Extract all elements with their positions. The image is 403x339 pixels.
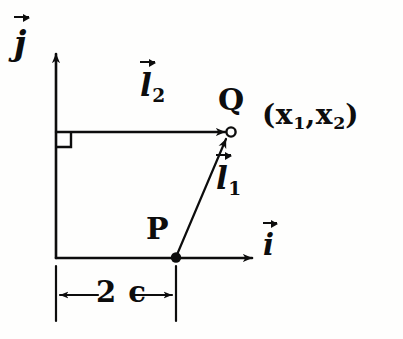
coord-close-paren: ): [345, 98, 359, 131]
point-q-coordinates-label: (x1,x2): [262, 101, 359, 133]
vector-l1-label: l1: [216, 163, 241, 199]
point-q-label: Q: [218, 85, 244, 115]
coord-x1-subscript: 1: [293, 113, 305, 133]
i-hat-axis-label: i: [263, 231, 274, 260]
vector-l1-subscript: 1: [228, 178, 241, 199]
coord-comma: ,: [305, 98, 315, 131]
right-angle-icon: [56, 132, 71, 147]
vector-l2-label: l2: [140, 70, 165, 106]
dimension-2c-label: 2 c: [96, 278, 147, 307]
diagram-canvas: [0, 0, 403, 339]
coord-x2-base: x: [316, 98, 333, 131]
coord-open-paren: (: [262, 98, 276, 131]
vector-l2-subscript: 2: [152, 85, 165, 106]
i-hat-letter: i: [263, 228, 274, 262]
vector-l2-letter: l: [140, 67, 152, 103]
vector-diagram-figure: j i l2 l1 Q P (x1,x2) 2 c: [0, 0, 403, 339]
point-p-marker: [171, 252, 181, 262]
j-hat-axis-label: j: [14, 26, 26, 60]
point-q-marker: [226, 127, 235, 136]
j-hat-letter: j: [14, 23, 26, 63]
coord-x2-subscript: 2: [333, 113, 345, 133]
coord-x1-base: x: [276, 98, 293, 131]
point-p-label: P: [146, 214, 169, 244]
vector-l1-letter: l: [216, 160, 228, 196]
